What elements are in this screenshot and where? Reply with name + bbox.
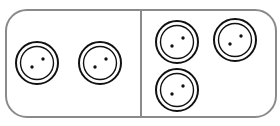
right-group <box>156 19 256 111</box>
coin-icon <box>16 42 58 84</box>
coins-layer <box>0 0 280 126</box>
coin-icon <box>156 69 198 111</box>
coin-icon <box>79 42 121 84</box>
coin-icon <box>156 21 198 63</box>
coin-icon <box>214 19 256 61</box>
left-group <box>16 42 121 84</box>
